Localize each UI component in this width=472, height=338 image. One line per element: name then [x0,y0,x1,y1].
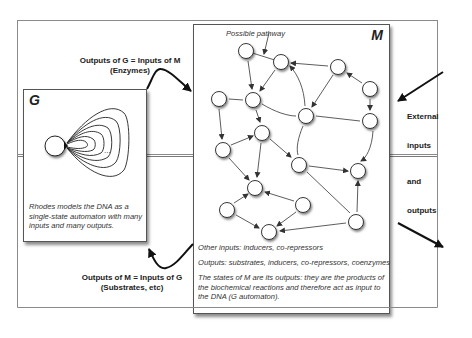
states-note: The states of M are its outputs: they ar… [198,273,386,302]
g-box-title: G [29,92,40,108]
m-network-box: M Possible pathway Other inputs: inducer… [193,24,390,314]
external-label-word2: inputs [407,141,431,150]
other-inputs-text: Other inputs: inducers, co-repressors [198,243,388,253]
g-automaton-box: G Rhodes models the DNA as a single-stat… [23,89,147,242]
m-to-g-label: Outputs of M = Inputs of G (Substrates, … [72,273,192,293]
m-to-g-label-line1: Outputs of M = Inputs of G [72,273,192,283]
external-label-word4: outputs [407,206,436,215]
g-box-caption: Rhodes models the DNA as a single-state … [29,202,145,231]
pathway-label: Possible pathway [226,29,285,39]
external-label-word1: External [407,112,439,121]
g-to-m-label-line1: Outputs of G = Inputs of M [70,56,190,66]
outputs-text: Outputs: substrates, inducers, co-repres… [198,258,393,268]
g-to-m-label-line2: (Enzymes) [70,66,190,76]
g-loops-ellipsis: ... [104,146,111,156]
m-to-g-label-line2: (Substrates, etc) [72,283,192,293]
m-box-title: M [371,27,383,43]
external-label-word3: and [407,177,421,186]
g-to-m-label: Outputs of G = Inputs of M (Enzymes) [70,56,190,76]
